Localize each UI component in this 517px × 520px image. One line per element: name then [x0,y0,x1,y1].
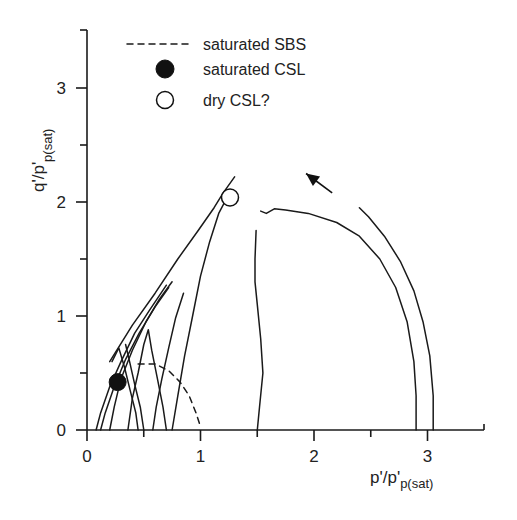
chart: 0123 0123 p'/p'p(sat) q'/p'p(sat) satura… [0,0,517,520]
stress-path-line [172,196,228,430]
y-tick-label: 1 [57,307,66,326]
y-axis-label-main: q'/p' [29,162,48,192]
legend-label-saturated-csl: saturated CSL [203,61,305,78]
y-tick-label: 3 [57,79,66,98]
stress-path-line [153,293,184,430]
x-tick-label: 3 [423,447,432,466]
stress-path-line [261,209,416,430]
legend-open-circle-icon [157,92,174,109]
stress-path-line [255,231,263,431]
legend-filled-circle-icon [156,60,174,78]
axes [80,30,484,430]
legend: saturated SBS saturated CSL dry CSL? [127,36,306,109]
legend-label-dry-csl: dry CSL? [203,92,270,109]
direction-arrow-head-icon [306,174,320,187]
stress-path-line [359,208,433,430]
x-tick-label: 2 [309,447,318,466]
y-tick-label: 2 [57,193,66,212]
x-ticks: 0123 [82,430,432,466]
y-ticks: 0123 [57,79,87,440]
x-tick-label: 0 [82,447,91,466]
series-layer [96,177,433,430]
dry-csl-point [222,189,239,206]
legend-label-sbs: saturated SBS [203,36,306,53]
x-axis-label: p'/p'p(sat) [370,468,433,491]
saturated-csl-point [109,374,126,391]
y-axis-label-sub: p(sat) [40,129,55,162]
annotation-layer [306,174,332,193]
sbs-dashed-line [138,364,200,427]
y-axis-label: q'/p'p(sat) [29,129,55,192]
x-tick-label: 1 [196,447,205,466]
x-axis-label-sub: p(sat) [400,476,433,491]
y-tick-label: 0 [57,421,66,440]
x-axis-label-main: p'/p' [370,468,400,487]
